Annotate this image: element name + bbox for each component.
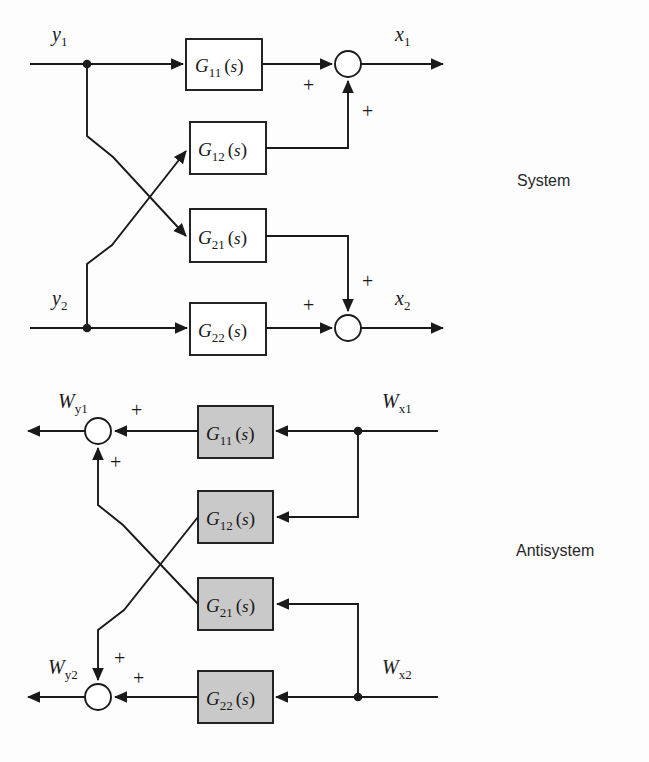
wire-wx1-to-ag12	[277, 431, 358, 517]
section-label-system: System	[517, 172, 570, 189]
block-ag11-sub: 11	[220, 433, 233, 448]
node-y1-pickoff	[83, 60, 92, 69]
wire-y1-to-g21	[87, 64, 186, 236]
summing-junction-wy1[interactable]	[85, 418, 111, 444]
block-antisystem-g21[interactable]: G21(s)	[198, 578, 273, 630]
section-label-antisystem: Antisystem	[516, 542, 594, 559]
block-diagram-page: G11(s) G12(s) G21(s) G22(s)	[0, 0, 649, 762]
block-ag21-base: G	[206, 595, 220, 616]
block-diagram-svg: G11(s) G12(s) G21(s) G22(s)	[0, 0, 649, 762]
antisystem-section: G11(s) G12(s) G21(s) G22(s)	[28, 390, 438, 723]
block-g21[interactable]: G21(s)	[190, 209, 266, 262]
signal-label-wy1: Wy1	[58, 390, 88, 416]
signal-label-wx1: Wx1	[382, 390, 412, 416]
block-g11[interactable]: G11(s)	[186, 39, 262, 90]
plus-sign-sum-x2-vertical: +	[362, 270, 373, 292]
signal-label-wx2: Wx2	[382, 656, 412, 682]
system-section: G11(s) G12(s) G21(s) G22(s)	[30, 23, 443, 355]
block-g11-base: G	[195, 55, 209, 76]
signal-label-y2: y2	[50, 287, 67, 313]
plus-sign-sum-wy2-vertical: +	[114, 647, 125, 669]
block-g12-sub: 12	[212, 149, 225, 164]
signal-label-x2: x2	[394, 287, 410, 313]
block-ag11-base: G	[206, 423, 220, 444]
plus-sign-sum-x1-horizontal: +	[303, 74, 314, 96]
node-y2-pickoff	[83, 324, 92, 333]
block-ag12-sub: 12	[220, 518, 233, 533]
node-wx1-pickoff	[354, 427, 363, 436]
wire-ag12-to-sum-wy2	[98, 517, 198, 680]
plus-sign-sum-wy1-vertical: +	[110, 451, 121, 473]
signal-label-x1: x1	[394, 23, 410, 49]
summing-junction-wy2[interactable]	[85, 684, 111, 710]
block-g22-sub: 22	[212, 330, 225, 345]
wire-y2-to-g12	[87, 151, 186, 328]
block-ag22-base: G	[206, 688, 220, 709]
block-g11-sub: 11	[209, 65, 222, 80]
plus-sign-sum-x1-vertical: +	[362, 100, 373, 122]
block-g12[interactable]: G12(s)	[190, 122, 266, 174]
block-g22-base: G	[198, 320, 212, 341]
node-wx2-pickoff	[354, 693, 363, 702]
summing-junction-x1[interactable]	[335, 51, 361, 77]
plus-sign-sum-x2-horizontal: +	[303, 294, 314, 316]
plus-sign-sum-wy2-horizontal: +	[133, 667, 144, 689]
block-ag22-sub: 22	[220, 698, 233, 713]
block-g22[interactable]: G22(s)	[190, 303, 266, 355]
block-antisystem-g11[interactable]: G11(s)	[198, 406, 273, 458]
block-antisystem-g12[interactable]: G12(s)	[198, 491, 273, 543]
signal-label-y1: y1	[50, 23, 67, 49]
block-ag21-sub: 21	[220, 605, 233, 620]
block-ag12-base: G	[206, 508, 220, 529]
block-g12-base: G	[198, 139, 212, 160]
plus-sign-sum-wy1-horizontal: +	[131, 399, 142, 421]
signal-label-wy2: Wy2	[48, 656, 78, 682]
wire-wx2-to-ag21	[277, 604, 358, 697]
summing-junction-x2[interactable]	[335, 315, 361, 341]
block-antisystem-g22[interactable]: G22(s)	[198, 671, 273, 723]
block-g21-sub: 21	[212, 237, 225, 252]
block-g21-base: G	[198, 227, 212, 248]
